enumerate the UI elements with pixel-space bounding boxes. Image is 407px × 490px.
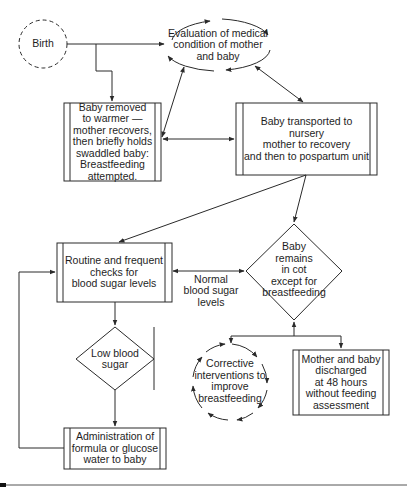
routine-checks-label: Routine and frequent checks for blood su… [63, 244, 165, 301]
flowchart-canvas [0, 0, 407, 490]
discharged-label: Mother and baby discharged at 48 hours w… [299, 351, 383, 414]
edge-branch-corrective [231, 336, 294, 343]
nursery-label: Baby transported to nursery mother to re… [243, 104, 370, 174]
edge-branch-discharged [294, 336, 341, 348]
corrective-label: Corrective interventions to improve brea… [192, 356, 268, 406]
edge-evaluation-nursery [255, 66, 303, 102]
normal-blood-sugar-label: Normal blood sugar levels [180, 273, 242, 309]
edge-nursery-routine [119, 175, 306, 242]
remains-in-cot-label: Baby remains in cot except for breastfee… [250, 236, 338, 304]
edge-warmer-evaluation [162, 67, 184, 137]
edge-birth-warmer [96, 44, 112, 101]
bottom-rule-marker [0, 483, 6, 487]
warmer-label: Baby removed to warmer — mother recovers… [70, 104, 155, 180]
administration-label: Administration of formula or glucose wat… [70, 429, 160, 468]
low-blood-sugar-label: Low blood sugar [84, 346, 146, 372]
evaluation-label: Evaluation of medical condition of mothe… [166, 26, 270, 64]
edge-nursery-cot [294, 175, 306, 222]
birth-label: Birth [19, 34, 67, 54]
